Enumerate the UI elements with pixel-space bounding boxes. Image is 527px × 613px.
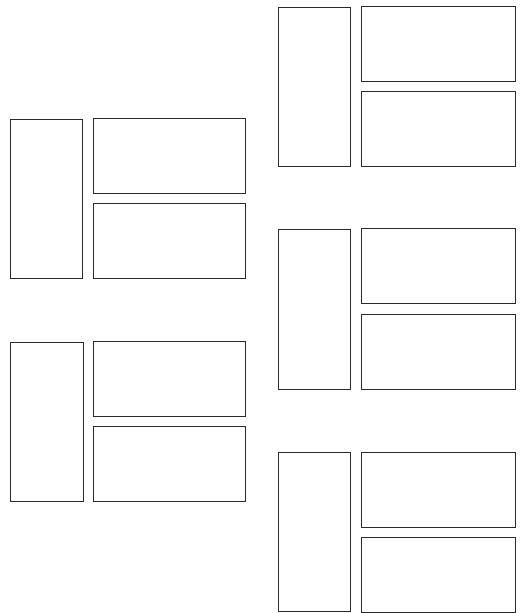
group-a-top-rect bbox=[93, 118, 246, 194]
group-e-tall-rect bbox=[278, 452, 351, 612]
group-e-bottom-rect bbox=[361, 537, 516, 613]
group-c-top-rect bbox=[361, 6, 516, 82]
group-d-bottom-rect bbox=[361, 314, 516, 390]
group-a-tall-rect bbox=[10, 119, 83, 279]
group-d-top-rect bbox=[361, 228, 516, 304]
group-d-tall-rect bbox=[278, 229, 351, 390]
group-b-top-rect bbox=[93, 341, 246, 417]
group-c-tall-rect bbox=[278, 7, 351, 167]
group-b-bottom-rect bbox=[93, 426, 246, 502]
group-b-tall-rect bbox=[10, 342, 84, 502]
group-c-bottom-rect bbox=[361, 91, 516, 167]
group-a-bottom-rect bbox=[93, 203, 246, 279]
group-e-top-rect bbox=[361, 452, 516, 528]
